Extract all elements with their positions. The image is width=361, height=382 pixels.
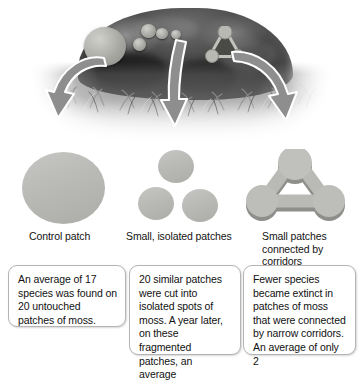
isolated-patch-disc — [158, 150, 194, 183]
corridor-patch-diagram — [243, 149, 347, 225]
isolated-patches-marking — [133, 38, 146, 51]
caption-isolated-patches: Small, isolated patches — [126, 230, 256, 243]
moss-rock-photo — [28, 0, 333, 148]
photo-vignette-mask — [28, 0, 333, 148]
isolated-patches-marking — [156, 28, 168, 39]
isolated-patches-marking — [141, 24, 156, 38]
caption-control-patch: Control patch — [29, 230, 139, 243]
isolated-patch-disc — [138, 187, 174, 220]
textbox-control: An average of 17 species was found on 20… — [8, 265, 126, 327]
control-patch-disc — [22, 152, 105, 224]
textbox-isolated: 20 similar patches were cut into isolate… — [129, 265, 241, 355]
caption-corridor-patches: Small patches connected by corridors — [262, 230, 358, 268]
isolated-patches-marking — [171, 30, 181, 39]
photo-right-fade — [285, 0, 333, 148]
photo-left-fade — [28, 0, 76, 148]
textbox-corridor: Fewer species became extinct in patches … — [243, 265, 356, 355]
control-patch-marking — [84, 27, 126, 66]
isolated-patch-disc — [182, 189, 218, 222]
corridor-patches-marking — [205, 26, 245, 64]
